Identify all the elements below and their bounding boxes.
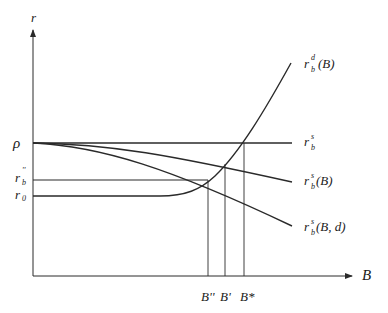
svg-text:b: b bbox=[311, 143, 315, 152]
b-prime-label: B' bbox=[220, 289, 231, 304]
svg-text:r: r bbox=[304, 173, 310, 188]
supply-curve-d-label: r b s (B, d) bbox=[304, 217, 346, 237]
svg-text:(B): (B) bbox=[316, 173, 333, 188]
rb-double-prime-label: r b '' bbox=[15, 166, 26, 187]
svg-text:r: r bbox=[304, 56, 310, 71]
b-double-prime-label: B'' bbox=[201, 289, 215, 304]
svg-text:r: r bbox=[304, 219, 310, 234]
svg-text:b: b bbox=[311, 65, 315, 74]
svg-text:0: 0 bbox=[22, 194, 26, 203]
loan-market-diagram: r B ρ r b '' r 0 B'' B' B* r b d (B) r b… bbox=[0, 0, 388, 313]
svg-text:'': '' bbox=[22, 166, 26, 175]
rho-label: ρ bbox=[12, 135, 20, 151]
svg-text:b: b bbox=[311, 182, 315, 191]
svg-text:s: s bbox=[311, 171, 314, 180]
supply-curve-label: r b s (B) bbox=[304, 171, 333, 191]
x-axis-label: B bbox=[362, 267, 371, 283]
y-axis-label: r bbox=[31, 10, 37, 25]
svg-text:(B, d): (B, d) bbox=[316, 219, 346, 234]
demand-curve-label: r b d (B) bbox=[304, 53, 335, 74]
svg-text:s: s bbox=[311, 217, 314, 226]
svg-text:b: b bbox=[311, 228, 315, 237]
svg-text:s: s bbox=[311, 132, 314, 141]
r0-label: r 0 bbox=[15, 187, 26, 203]
demand-curve bbox=[33, 63, 291, 196]
svg-text:r: r bbox=[15, 170, 21, 185]
b-star-label: B* bbox=[240, 289, 255, 304]
svg-text:r: r bbox=[15, 187, 21, 202]
flat-supply-label: r b s bbox=[304, 132, 315, 152]
svg-text:r: r bbox=[304, 134, 310, 149]
svg-text:(B): (B) bbox=[318, 56, 335, 71]
svg-text:b: b bbox=[22, 178, 26, 187]
svg-text:d: d bbox=[311, 53, 316, 62]
supply-curve bbox=[33, 143, 292, 182]
